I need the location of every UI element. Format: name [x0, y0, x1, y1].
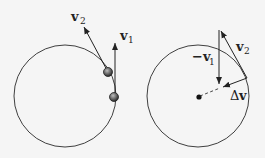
label-neg-v1-sub: 1 — [209, 57, 215, 67]
radius-dashed-line — [200, 88, 220, 96]
circular-motion-diagram: v 2 v 1 −v 1 v 2 Δ v — [0, 0, 265, 158]
label-v2-right: v — [235, 39, 244, 54]
label-delta: Δ — [230, 88, 239, 103]
ball-position-1 — [110, 93, 119, 102]
delta-v-arrow — [223, 78, 247, 87]
center-dot — [196, 94, 201, 99]
label-v1-left: v — [119, 28, 128, 43]
label-v2-left: v — [70, 9, 79, 24]
label-v1-left-sub: 1 — [128, 35, 134, 45]
v2-arrow — [84, 27, 108, 72]
left-panel: v 2 v 1 — [14, 9, 134, 147]
label-v2-left-sub: 2 — [80, 16, 86, 26]
label-v2-right-sub: 2 — [244, 46, 250, 56]
label-delta-v: v — [238, 88, 247, 103]
left-orbit-circle — [14, 45, 116, 147]
diagram-canvas: v 2 v 1 −v 1 v 2 Δ v — [0, 0, 265, 158]
right-panel: −v 1 v 2 Δ v — [147, 30, 250, 147]
ball-position-2 — [104, 68, 113, 77]
